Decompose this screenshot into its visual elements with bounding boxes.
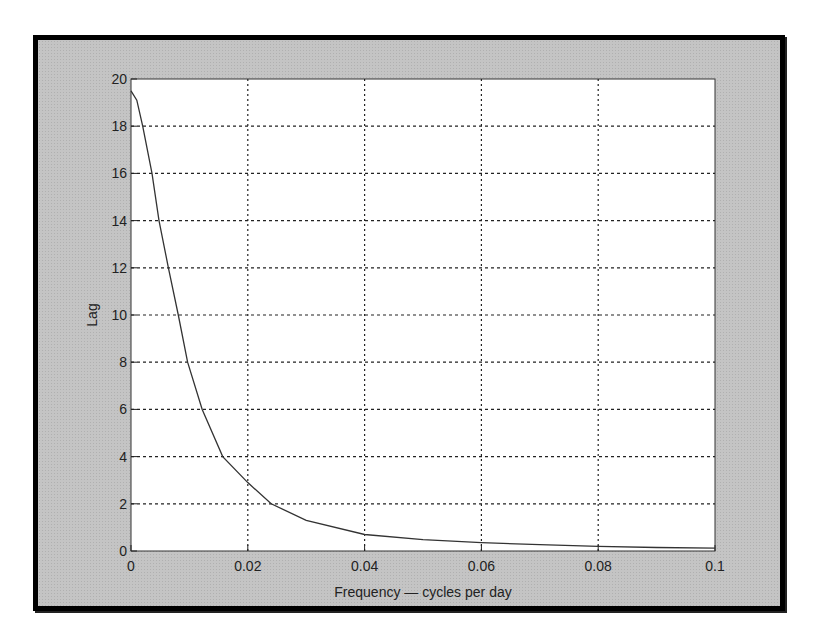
y-tick-label: 12 xyxy=(111,260,127,276)
y-tick-label: 14 xyxy=(111,213,127,229)
x-tick-label: 0.02 xyxy=(234,558,261,574)
x-tick-label: 0.08 xyxy=(585,558,612,574)
x-tick-label: 0 xyxy=(127,558,135,574)
y-tick-label: 16 xyxy=(111,165,127,181)
y-tick-label: 8 xyxy=(119,354,127,370)
y-tick-label: 0 xyxy=(119,543,127,559)
x-axis-label: Frequency — cycles per day xyxy=(334,584,511,600)
plot-area xyxy=(131,79,715,551)
x-tick-label: 0.1 xyxy=(705,558,725,574)
chart-svg: 00.020.040.060.080.102468101214161820 Fr… xyxy=(0,0,815,642)
y-axis-label: Lag xyxy=(84,303,100,326)
y-tick-label: 6 xyxy=(119,401,127,417)
x-tick-label: 0.06 xyxy=(468,558,495,574)
y-tick-label: 20 xyxy=(111,71,127,87)
y-tick-label: 18 xyxy=(111,118,127,134)
y-tick-label: 4 xyxy=(119,449,127,465)
y-tick-label: 2 xyxy=(119,496,127,512)
x-tick-label: 0.04 xyxy=(351,558,378,574)
y-tick-label: 10 xyxy=(111,307,127,323)
